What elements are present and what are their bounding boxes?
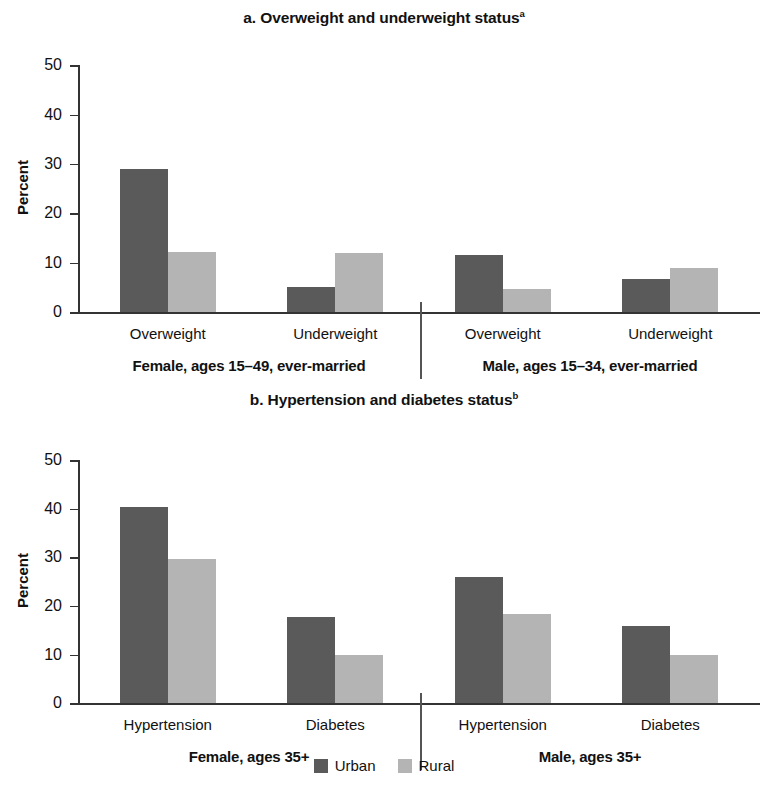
y-axis-tick-label: 10 <box>20 255 62 271</box>
y-axis-tick-label: 0 <box>20 695 62 711</box>
chart-panel-a: a. Overweight and underweight statusa Pe… <box>0 0 768 375</box>
y-axis-tick-mark <box>70 557 79 559</box>
bar-urban-overweight-female <box>120 169 168 312</box>
category-label: Hypertension <box>459 716 547 733</box>
category-label: Diabetes <box>306 716 365 733</box>
panel-b-title: b. Hypertension and diabetes statusb <box>0 382 768 409</box>
y-axis-tick-mark <box>70 164 79 166</box>
bar-rural-diabetes-male <box>670 655 718 703</box>
y-axis-tick-label: 0 <box>20 304 62 320</box>
y-axis-tick-label: 50 <box>20 452 62 468</box>
panel-a-title: a. Overweight and underweight statusa <box>0 0 768 27</box>
y-axis-tick-mark <box>70 65 79 67</box>
bar-rural-underweight-female <box>335 253 383 312</box>
y-axis-tick-label: 10 <box>20 647 62 663</box>
category-label: Underweight <box>293 325 377 342</box>
legend-item-rural: Rural <box>398 757 455 774</box>
bar-urban-diabetes-male <box>622 626 670 703</box>
bar-urban-diabetes-female <box>287 617 335 703</box>
bar-rural-overweight-female <box>168 252 216 312</box>
bar-rural-underweight-male <box>670 268 718 312</box>
panel-b-title-superscript: b <box>512 390 518 401</box>
y-axis-line <box>78 65 80 314</box>
y-axis-tick-mark <box>70 213 79 215</box>
bar-urban-hypertension-male <box>455 577 503 703</box>
y-axis-tick-mark <box>70 460 79 462</box>
category-label: Hypertension <box>124 716 212 733</box>
y-axis-tick-label: 40 <box>20 501 62 517</box>
y-axis-tick-mark <box>70 655 79 657</box>
legend-item-urban: Urban <box>314 757 376 774</box>
y-axis-tick-label: 30 <box>20 156 62 172</box>
bar-rural-diabetes-female <box>335 655 383 703</box>
x-axis-baseline <box>78 312 760 314</box>
y-axis-tick-label: 20 <box>20 598 62 614</box>
bar-urban-underweight-female <box>287 287 335 312</box>
legend-label-urban: Urban <box>335 757 376 774</box>
bar-urban-underweight-male <box>622 279 670 312</box>
panel-a-title-text: a. Overweight and underweight status <box>243 9 519 26</box>
legend-swatch-urban-icon <box>314 759 328 773</box>
category-label: Overweight <box>130 325 206 342</box>
chart-legend: Urban Rural <box>0 757 768 774</box>
panel-b-title-text: b. Hypertension and diabetes status <box>250 391 513 408</box>
group-label: Female, ages 15–49, ever-married <box>133 357 366 374</box>
y-axis-tick-label: 30 <box>20 549 62 565</box>
y-axis-tick-mark <box>70 312 79 314</box>
group-label: Male, ages 15–34, ever-married <box>483 357 698 374</box>
y-axis-tick-mark <box>70 263 79 265</box>
x-axis-baseline <box>78 703 760 705</box>
bar-rural-hypertension-male <box>503 614 551 703</box>
category-label: Diabetes <box>641 716 700 733</box>
y-axis-tick-label: 40 <box>20 107 62 123</box>
legend-label-rural: Rural <box>419 757 455 774</box>
panel-a-title-superscript: a <box>520 8 525 19</box>
y-axis-tick-mark <box>70 509 79 511</box>
y-axis-tick-label: 50 <box>20 57 62 73</box>
y-axis-tick-mark <box>70 115 79 117</box>
y-axis-tick-mark <box>70 606 79 608</box>
category-label: Overweight <box>465 325 541 342</box>
bar-urban-overweight-male <box>455 255 503 312</box>
category-label: Underweight <box>628 325 712 342</box>
legend-swatch-rural-icon <box>398 759 412 773</box>
bar-rural-hypertension-female <box>168 559 216 703</box>
y-axis-tick-mark <box>70 703 79 705</box>
bar-urban-hypertension-female <box>120 507 168 703</box>
y-axis-tick-label: 20 <box>20 205 62 221</box>
bar-rural-overweight-male <box>503 289 551 312</box>
y-axis-line <box>78 460 80 705</box>
chart-panel-b: b. Hypertension and diabetes statusb Per… <box>0 382 768 752</box>
group-divider <box>420 302 422 379</box>
